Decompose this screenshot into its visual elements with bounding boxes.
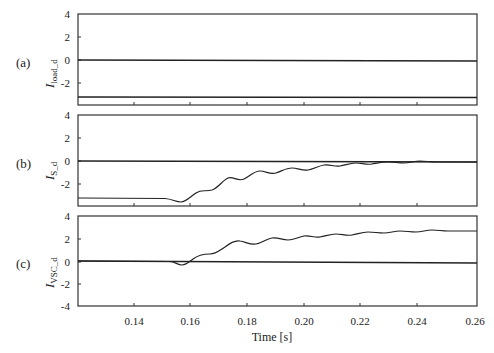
x-axis: 0.14 0.16 0.18 0.20 0.22 0.24 0.26 Time … [124,315,485,344]
series-i-vsc-d [78,230,477,265]
ylabel-c: IVSC_d [42,257,59,289]
chart-figure: 4 2 0 -2 (a) Iload_d 4 2 0 -2 (b) IS_d [0,0,494,353]
ytick-b-0: 0 [65,155,71,167]
ytick-c-2: 2 [65,233,71,245]
ytick-b-2: 2 [65,132,71,144]
series-i-load-d [78,97,477,98]
zero-line-a [78,60,477,61]
xtick-0-14: 0.14 [124,315,144,327]
panel-label-a: (a) [16,55,30,70]
ytick-b-4: 4 [65,109,71,121]
panel-b: 4 2 0 -2 (b) IS_d [16,109,477,206]
ylabel-b: IS_d [42,161,59,181]
xtick-0-26: 0.26 [465,315,485,327]
xtick-0-22: 0.22 [350,315,369,327]
x-axis-title: Time [s] [252,330,293,344]
panel-label-b: (b) [16,156,31,171]
series-i-s-d [78,161,477,202]
xtick-0-16: 0.16 [180,315,200,327]
ytick-a-neg2: -2 [61,77,70,89]
xtick-0-24: 0.24 [407,315,427,327]
ytick-a-4: 4 [65,8,71,20]
ytick-c-neg2: -2 [61,278,70,290]
ytick-a-0: 0 [65,54,71,66]
ytick-b-neg2: -2 [61,178,70,190]
xtick-0-18: 0.18 [237,315,257,327]
ylabel-a: Iload_d [42,59,59,89]
panel-c: 4 2 0 -2 -4 (c) IVSC_d [16,210,477,312]
ytick-c-4: 4 [65,210,71,222]
panel-b-frame [78,115,477,206]
xtick-0-20: 0.20 [294,315,314,327]
ytick-c-neg4: -4 [61,300,71,312]
panel-a: 4 2 0 -2 (a) Iload_d [16,8,477,105]
ytick-a-2: 2 [65,31,71,43]
ytick-c-0: 0 [65,256,71,268]
panel-label-c: (c) [16,256,30,271]
